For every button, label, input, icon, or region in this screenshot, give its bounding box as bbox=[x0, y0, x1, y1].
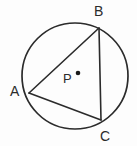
geometry-figure: B A C P bbox=[0, 0, 137, 146]
center-label-p: P bbox=[63, 72, 72, 85]
vertex-label-c: C bbox=[100, 129, 110, 143]
vertex-label-a: A bbox=[10, 84, 19, 98]
circle-outline bbox=[22, 23, 128, 129]
center-point-dot bbox=[76, 71, 81, 76]
vertex-label-b: B bbox=[94, 4, 103, 18]
chord-bc bbox=[99, 28, 101, 120]
